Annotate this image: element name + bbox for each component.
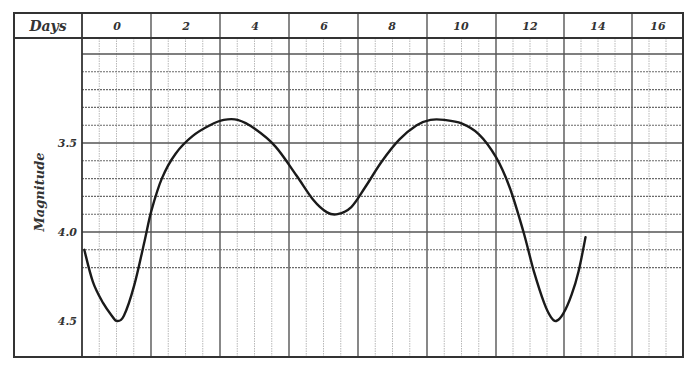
x-tick-10: 10 bbox=[453, 20, 469, 33]
y-tick-labels: 3.5 4.0 4.5 bbox=[58, 137, 77, 328]
minor-grid bbox=[99, 38, 666, 357]
light-curve-chart: Days 0 2 4 6 8 10 12 14 16 Magnitude 3.5… bbox=[0, 0, 693, 369]
x-tick-2: 2 bbox=[181, 20, 190, 33]
y-tick-4-5: 4.5 bbox=[58, 315, 77, 328]
x-tick-0: 0 bbox=[113, 20, 121, 33]
x-tick-12: 12 bbox=[522, 20, 538, 33]
y-tick-3-5: 3.5 bbox=[58, 137, 77, 150]
major-grid bbox=[82, 13, 683, 357]
chart-frame bbox=[14, 13, 683, 357]
x-tick-6: 6 bbox=[320, 20, 328, 33]
header-days-label: Days bbox=[28, 18, 66, 34]
y-tick-4-0: 4.0 bbox=[58, 226, 77, 239]
x-tick-4: 4 bbox=[251, 20, 259, 33]
x-tick-labels: 0 2 4 6 8 10 12 14 16 bbox=[113, 20, 666, 33]
light-curve-line bbox=[84, 119, 585, 321]
x-tick-8: 8 bbox=[388, 20, 396, 33]
y-axis-label: Magnitude bbox=[32, 152, 47, 232]
x-tick-14: 14 bbox=[590, 20, 605, 33]
x-tick-16: 16 bbox=[650, 20, 666, 33]
